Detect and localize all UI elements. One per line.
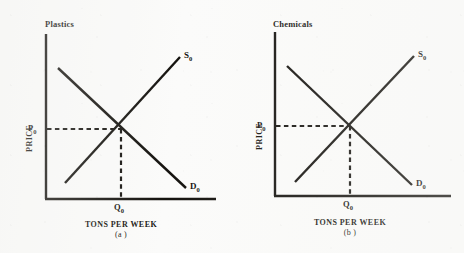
price-tick-label: P0 — [28, 124, 36, 135]
supply-curve-label: S0 — [184, 51, 192, 62]
panel-letter: (b ) — [295, 229, 405, 237]
supply-curve-label: S0 — [418, 50, 426, 61]
quantity-tick-label: Q0 — [114, 203, 124, 214]
supply-demand-figure: Plastics PRICE P0 Q0 S0 D0 TONS PER WEEK… — [0, 0, 464, 253]
supply-curve — [295, 56, 414, 182]
chart-panel-chemicals: Chemicals PRICE P0 Q0 S0 D0 TONS PER WEE… — [232, 0, 464, 253]
supply-curve — [65, 57, 180, 183]
chemicals-plot-area — [232, 0, 464, 253]
price-tick-label: P0 — [257, 121, 265, 132]
x-axis-title: TONS PER WEEK — [66, 221, 176, 229]
x-axis-title: TONS PER WEEK — [295, 219, 405, 227]
demand-curve-label: D0 — [416, 179, 426, 190]
panel-title: Plastics — [45, 20, 74, 29]
chart-panel-plastics: Plastics PRICE P0 Q0 S0 D0 TONS PER WEEK… — [0, 0, 232, 253]
demand-curve-label: D0 — [190, 182, 200, 193]
panel-title: Chemicals — [273, 20, 313, 29]
quantity-tick-label: Q0 — [343, 200, 353, 211]
panel-letter: (a ) — [66, 231, 176, 239]
